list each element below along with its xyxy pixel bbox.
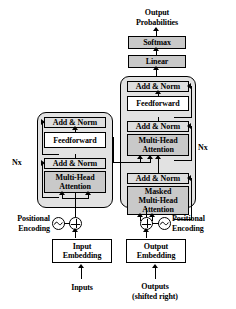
arrowhead-cross-attn-v: [147, 155, 153, 159]
arrowhead-decoder-residual-2: [187, 123, 191, 129]
arrowhead-encoder-addnorm-top: [72, 126, 78, 130]
encoder-residual-base-1: [42, 154, 59, 155]
decoder-cross-attn-input-q: [158, 157, 159, 173]
arrowhead-cross-attn-k: [137, 155, 143, 159]
arrowhead-encoder-residual-1: [41, 119, 45, 125]
outputs-shifted-right-label: Outputs (shifted right): [115, 282, 195, 301]
inputs-label: Inputs: [52, 283, 112, 293]
encoder-positional-encoding-label: Positional Encoding: [2, 214, 50, 233]
arrowhead-decoder-residual-3: [187, 175, 191, 181]
decoder-repeat-label: Nx: [198, 143, 220, 153]
arrowhead-masked-attn-k: [137, 213, 143, 217]
arrowhead-encoder-attn-v: [85, 191, 91, 195]
encoder-repeat-label: Nx: [12, 158, 34, 168]
decoder-masked-multi-head-attention-block: Masked Multi-Head Attention: [127, 186, 189, 215]
encoder-pe-link: [64, 223, 70, 224]
encoder-attn-kv-bus: [62, 198, 89, 199]
encoder-output-riser: [113, 137, 114, 163]
arrowhead-decoder-addnorm-top: [155, 90, 161, 94]
arrowhead-cross-attn-q: [155, 155, 161, 159]
decoder-feedforward-block: Feedforward: [127, 96, 189, 111]
encoder-to-decoder-link: [113, 162, 141, 163]
arrowhead-output-probabilities: [153, 27, 159, 31]
decoder-add-norm-mid: Add & Norm: [127, 121, 189, 132]
encoder-multi-head-attention-block: Multi-Head Attention: [44, 171, 106, 193]
transformer-architecture-diagram: Output Probabilities Softmax Linear Add …: [0, 0, 236, 309]
encoder-residual-line-1: [42, 122, 43, 155]
arrowhead-decoder-residual-1: [187, 83, 191, 89]
sine-wave-circle-icon-decoder: [158, 217, 171, 230]
encoder-feedforward-block: Feedforward: [44, 132, 106, 148]
output-probabilities-label: Output Probabilities: [112, 8, 202, 27]
decoder-residual-line-1: [191, 86, 192, 118]
arrowhead-masked-attn-v: [149, 213, 155, 217]
arrowhead-decoder-plus: [143, 228, 149, 232]
decoder-add-norm-bottom: Add & Norm: [127, 173, 189, 184]
encoder-residual-base-2: [42, 197, 59, 198]
encoder-add-norm-bottom: Add & Norm: [44, 158, 106, 169]
input-embedding-block: Input Embedding: [52, 239, 112, 263]
decoder-positional-encoding-label: Positional Encoding: [172, 214, 234, 233]
decoder-residual-line-2: [191, 126, 192, 161]
decoder-pe-link: [152, 223, 159, 224]
arrowhead-linear: [153, 66, 159, 70]
output-embedding-block: Output Embedding: [126, 239, 186, 263]
arrowhead-softmax: [153, 47, 159, 51]
arrowhead-encoder-residual-2: [41, 160, 45, 166]
arrowhead-input-embedding: [78, 264, 84, 268]
decoder-kv-bus: [140, 162, 151, 163]
arrowhead-encoder-plus: [72, 228, 78, 232]
connector-inputs-to-embedding: [81, 268, 82, 279]
encoder-residual-line-2: [42, 163, 43, 198]
encoder-attn-input-q: [75, 193, 76, 207]
arrowhead-encoder-attn-k: [59, 191, 65, 195]
decoder-multi-head-attention-block: Multi-Head Attention: [127, 134, 189, 156]
arrowhead-output-embedding: [152, 264, 158, 268]
connector-outputs-to-embedding: [155, 268, 156, 279]
decoder-residual-base-2: [174, 160, 192, 161]
decoder-residual-base-1: [174, 117, 192, 118]
